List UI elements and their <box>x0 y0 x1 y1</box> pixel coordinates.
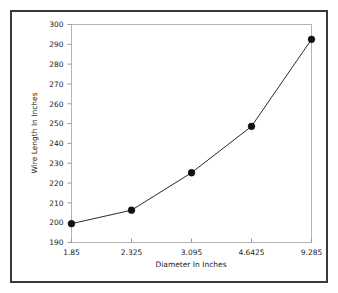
series-markers <box>68 36 315 227</box>
y-tick-label: 250 <box>49 119 64 128</box>
y-tick-label: 270 <box>49 80 64 89</box>
y-tick-label: 200 <box>49 218 64 227</box>
x-tick-label: 1.85 <box>63 248 80 257</box>
data-point-marker <box>308 36 315 43</box>
data-point-marker <box>188 169 195 176</box>
line-chart: 190200210220230240250260270280290300 1.8… <box>12 12 326 281</box>
series-line-wire-length <box>72 39 312 223</box>
x-tick-label: 3.095 <box>181 248 203 257</box>
plot-area-frame <box>72 25 312 243</box>
y-tick-label: 290 <box>49 40 64 49</box>
y-tick-label: 260 <box>49 100 64 109</box>
data-point-marker <box>248 123 255 130</box>
y-axis-title: Wire Length In Inches <box>30 92 39 173</box>
y-tick-label: 230 <box>49 159 64 168</box>
data-series-group <box>68 36 315 227</box>
figure-outer-border: 190200210220230240250260270280290300 1.8… <box>10 10 328 283</box>
y-tick-label: 240 <box>49 139 64 148</box>
y-axis: 190200210220230240250260270280290300 <box>49 20 71 247</box>
data-point-marker <box>128 207 135 214</box>
data-point-marker <box>68 220 75 227</box>
x-axis: 1.852.3253.0954.64259.285 <box>63 239 322 257</box>
y-tick-label: 220 <box>49 179 64 188</box>
x-tick-label: 2.325 <box>121 248 143 257</box>
x-tick-label: 4.6425 <box>238 248 264 257</box>
x-tick-label: 9.285 <box>301 248 323 257</box>
y-tick-label: 210 <box>49 199 64 208</box>
chart-page: 190200210220230240250260270280290300 1.8… <box>0 0 338 293</box>
y-tick-label: 300 <box>49 20 64 29</box>
y-tick-label: 280 <box>49 60 64 69</box>
y-tick-label: 190 <box>49 238 64 247</box>
x-axis-title: Diameter In Inches <box>155 260 226 269</box>
